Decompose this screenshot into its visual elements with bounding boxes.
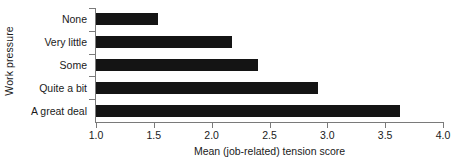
x-tick-mark [212,123,213,128]
bar-quite-a-bit [96,82,318,94]
x-tick-mark [385,123,386,128]
x-tick-mark [154,123,155,128]
x-tick-label: 1.5 [134,129,174,141]
x-axis-title: Mean (job-related) tension score [96,145,443,157]
bar-none [96,13,158,25]
x-tick-mark [270,123,271,128]
x-tick-mark [327,123,328,128]
y-axis-title: Work pressure [0,0,18,122]
y-axis-tick-labels: NoneVery littleSomeQuite a bitA great de… [18,8,91,122]
y-tick-mark [89,99,96,100]
y-tick-label: A great deal [31,104,87,118]
y-tick-label: Some [60,58,87,72]
bar-chart: Work pressure NoneVery littleSomeQuite a… [0,0,466,165]
x-tick-label: 4.0 [423,129,463,141]
x-tick-label: 3.0 [307,129,347,141]
y-tick-label: Very little [44,35,87,49]
x-tick-label: 1.0 [76,129,116,141]
y-tick-mark [89,76,96,77]
plot-area [96,8,443,122]
y-tick-mark [89,54,96,55]
bar-a-great-deal [96,105,400,117]
x-tick-mark [443,123,444,128]
y-axis-title-text: Work pressure [3,26,15,95]
y-tick-label: Quite a bit [39,81,87,95]
x-tick-mark [96,123,97,128]
y-tick-mark [89,31,96,32]
y-tick-mark [89,8,96,9]
x-tick-label: 3.5 [365,129,405,141]
bar-very-little [96,36,232,48]
bar-some [96,59,258,71]
y-tick-label: None [62,12,87,26]
x-tick-label: 2.5 [250,129,290,141]
x-tick-label: 2.0 [192,129,232,141]
